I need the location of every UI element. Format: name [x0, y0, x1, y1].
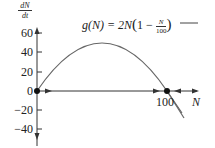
y-ticks: [37, 33, 42, 129]
y-axis-arrow-down-icon: [35, 133, 40, 140]
legend-fraction: N100: [156, 18, 167, 35]
y-tick-neg40: −40: [14, 123, 33, 135]
x-axis-label: N: [192, 96, 200, 108]
flow-arrow-right-icon: [153, 89, 160, 94]
ylabel-denominator: dt: [18, 11, 32, 20]
y-tick-60: 60: [21, 27, 33, 39]
y-tick-20: 20: [21, 66, 33, 78]
flow-arrow-right-icon: [45, 89, 52, 94]
legend-frac-num: N: [156, 18, 167, 27]
ylabel-numerator: dN: [18, 1, 32, 11]
x-axis-arrow-right-icon: [192, 89, 199, 94]
equilibrium-point-100: [164, 88, 170, 94]
y-tick-neg20: −20: [14, 104, 33, 116]
legend-frac-den: 100: [156, 27, 167, 35]
legend-prefix: g(N) = 2N: [82, 18, 132, 32]
y-tick-0: 0: [27, 85, 33, 97]
legend-paren-close: ): [166, 16, 171, 32]
x-tick-100: 100: [156, 96, 174, 108]
equilibrium-point-0: [34, 88, 40, 94]
legend: g(N) = 2N(1 − N100): [82, 16, 171, 35]
flow-arrow-left-icon: [174, 89, 181, 94]
legend-one-minus: 1 −: [137, 18, 156, 32]
y-axis-label: dN dt: [18, 1, 32, 20]
y-tick-40: 40: [21, 46, 33, 58]
